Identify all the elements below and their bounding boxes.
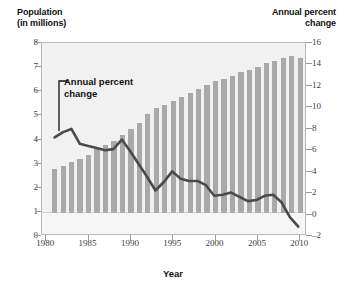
right-axis-tick-label: 0 xyxy=(312,209,336,219)
right-axis-tick-label: 2 xyxy=(312,187,336,197)
right-axis-tick-label: 14 xyxy=(312,58,336,68)
right-axis-tick-mark xyxy=(306,106,312,107)
left-axis-tick-mark xyxy=(35,163,41,164)
right-axis-tick-mark xyxy=(306,214,312,215)
right-axis-tick-mark xyxy=(306,128,312,129)
right-axis-tick-mark xyxy=(306,192,312,193)
left-axis-tick-mark xyxy=(35,211,41,212)
right-axis-tick-label: 4 xyxy=(312,166,336,176)
left-axis-tick-mark xyxy=(35,66,41,67)
x-axis-tick-mark xyxy=(215,235,216,241)
x-axis-tick-mark xyxy=(45,235,46,241)
x-axis-tick-mark xyxy=(88,235,89,241)
left-axis-tick-mark xyxy=(35,90,41,91)
left-axis-title: Population (in millions) xyxy=(17,7,66,29)
x-axis-tick-mark xyxy=(130,235,131,241)
right-axis-tick-mark xyxy=(306,85,312,86)
right-axis-tick-label: 12 xyxy=(312,80,336,90)
right-axis-tick-label: 16 xyxy=(312,37,336,47)
plot-area xyxy=(41,42,306,235)
right-axis-tick-label: 8 xyxy=(312,123,336,133)
annotation-annual-percent-change: Annual percent change xyxy=(64,76,133,99)
right-axis-tick-mark xyxy=(306,63,312,64)
line-series xyxy=(42,43,305,234)
right-axis-tick-mark xyxy=(306,235,312,236)
right-axis-tick-label: 6 xyxy=(312,144,336,154)
x-axis-title: Year xyxy=(0,268,346,279)
right-axis-tick-mark xyxy=(306,171,312,172)
right-axis-tick-mark xyxy=(306,42,312,43)
left-axis-tick-mark xyxy=(35,187,41,188)
x-axis-tick-mark xyxy=(257,235,258,241)
x-axis-tick-mark xyxy=(172,235,173,241)
right-axis-title: Annual percent change xyxy=(272,7,336,29)
left-axis-tick-mark xyxy=(35,139,41,140)
left-axis-tick-mark xyxy=(35,235,41,236)
chart-figure: Population (in millions) Annual percent … xyxy=(0,0,346,292)
right-axis-tick-label: 10 xyxy=(312,101,336,111)
left-axis-tick-mark xyxy=(35,42,41,43)
left-axis-tick-mark xyxy=(35,114,41,115)
right-axis-tick-mark xyxy=(306,149,312,150)
x-axis-tick-mark xyxy=(299,235,300,241)
